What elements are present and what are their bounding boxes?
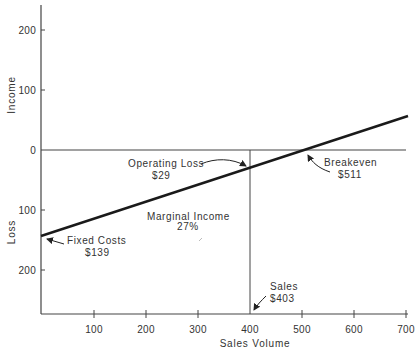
fixed-costs-label: Fixed Costs: [67, 235, 126, 246]
y-axis-title-income: Income: [6, 76, 17, 114]
x-axis-title: Sales Volume: [220, 338, 291, 349]
y-tick-200-income: 200: [18, 25, 36, 36]
operating-loss-label: Operating Loss: [128, 158, 204, 169]
sales-value: $403: [270, 293, 295, 304]
breakeven-chart: 200 100 0 100 200 100 200 300 400 500 60…: [0, 0, 419, 353]
x-tick-700: 700: [397, 324, 415, 335]
x-tick-100: 100: [85, 324, 103, 335]
x-tick-400: 400: [241, 324, 259, 335]
x-tick-600: 600: [345, 324, 363, 335]
operating-loss-arrow: [201, 160, 246, 166]
x-tick-500: 500: [293, 324, 311, 335]
y-axis-title-loss: Loss: [6, 220, 17, 244]
y-tick-100-income: 100: [18, 85, 36, 96]
breakeven-label: Breakeven: [324, 157, 377, 168]
x-tick-200: 200: [137, 324, 155, 335]
y-tick-100-loss: 100: [18, 205, 36, 216]
fixed-costs-value: $139: [85, 247, 110, 258]
fixed-costs-arrow: [47, 239, 64, 244]
pencil-mark: [199, 238, 202, 241]
y-tick-200-loss: 200: [18, 265, 36, 276]
sales-label: Sales: [270, 281, 298, 292]
y-tick-0: 0: [30, 145, 36, 156]
breakeven-value: $511: [338, 169, 362, 180]
sales-arrow: [254, 296, 266, 310]
operating-loss-value: $29: [152, 170, 171, 181]
marginal-income-value: 27%: [177, 221, 199, 232]
x-tick-300: 300: [189, 324, 207, 335]
